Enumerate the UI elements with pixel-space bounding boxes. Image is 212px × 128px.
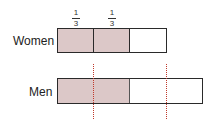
- women-label: Women: [13, 34, 54, 48]
- women-segment-2: [94, 29, 130, 52]
- fraction-one-third-1: 1 3: [71, 9, 81, 28]
- denominator: 3: [74, 19, 78, 28]
- numerator: 1: [74, 8, 78, 17]
- dotted-guide-line-1: [93, 64, 94, 119]
- women-segment-3: [130, 29, 166, 52]
- dotted-guide-line-2: [166, 64, 167, 119]
- fraction-one-third-2: 1 3: [107, 9, 117, 28]
- denominator: 3: [110, 19, 114, 28]
- men-bar: [57, 78, 203, 104]
- men-shaded-segment: [58, 79, 130, 103]
- numerator: 1: [110, 8, 114, 17]
- women-segment-1: [58, 29, 94, 52]
- men-label: Men: [29, 85, 52, 99]
- women-bar: [57, 28, 167, 53]
